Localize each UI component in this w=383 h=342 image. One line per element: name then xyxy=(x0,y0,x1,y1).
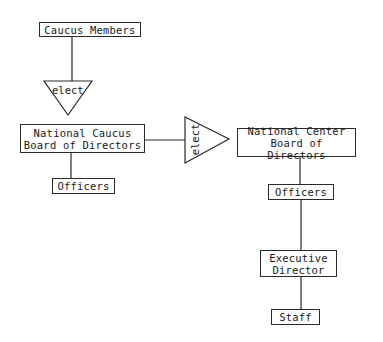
elect-label-1: elect xyxy=(52,85,84,96)
node-executive-director: Executive Director xyxy=(260,250,337,277)
node-caucus-officers: Officers xyxy=(52,178,115,194)
org-chart-diagram: Caucus Members elect National Caucus Boa… xyxy=(0,0,383,342)
node-center-officers: Officers xyxy=(268,184,334,200)
node-caucus-members: Caucus Members xyxy=(39,22,141,37)
node-staff: Staff xyxy=(271,309,320,325)
node-national-caucus-board: National Caucus Board of Directors xyxy=(20,124,145,153)
elect-label-2: elect xyxy=(190,124,201,156)
node-national-center-board: National Center Board of Directors xyxy=(237,128,356,157)
connector-lines xyxy=(0,0,383,342)
